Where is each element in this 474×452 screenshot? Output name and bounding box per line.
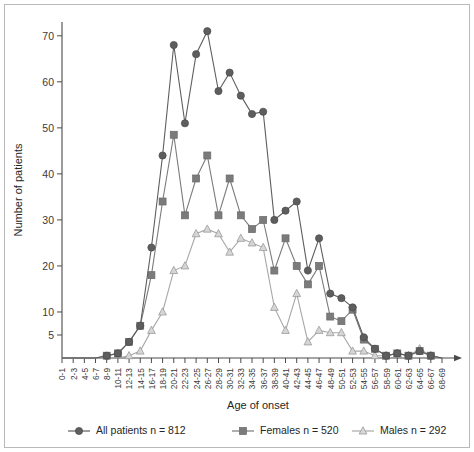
x-tick-label: 54-55 [359, 368, 369, 390]
x-tick-label: 58-59 [382, 368, 392, 390]
data-point-circle [383, 352, 390, 359]
data-point-triangle [159, 308, 167, 315]
x-tick-label: 48-49 [326, 368, 336, 390]
x-tick-label: 6-7 [91, 368, 101, 380]
data-point-circle [416, 347, 423, 354]
series-line [62, 31, 442, 358]
y-tick-label: 60 [42, 76, 54, 88]
x-tick-label: 40-41 [281, 368, 291, 390]
x-tick-label: 14-15 [136, 368, 146, 390]
data-point-triangle [282, 326, 290, 333]
x-tick-label: 60-61 [393, 368, 403, 390]
x-tick-label: 64-65 [415, 368, 425, 390]
data-point-circle [271, 216, 278, 223]
data-point-circle [125, 338, 132, 345]
legend-entry[interactable]: Males n = 292 [352, 424, 446, 436]
x-tick-label: 24-25 [192, 368, 202, 390]
x-tick-label: 62-63 [404, 368, 414, 390]
x-tick-label: 66-67 [426, 368, 436, 390]
y-tick-label: 5 [48, 329, 54, 341]
data-point-square [226, 175, 233, 182]
x-tick-label: 18-19 [158, 368, 168, 390]
x-tick-label: 2-3 [69, 368, 79, 380]
x-tick-label: 56-57 [370, 368, 380, 390]
data-point-triangle [315, 326, 323, 333]
x-tick-label: 44-45 [303, 368, 313, 390]
data-point-triangle [338, 328, 346, 335]
data-point-circle [338, 295, 345, 302]
x-tick-label: 12-13 [124, 368, 134, 390]
data-point-square [327, 313, 334, 320]
x-axis-arrow [454, 355, 462, 362]
data-point-square [204, 152, 211, 159]
data-point-square [181, 212, 188, 219]
data-point-circle [315, 235, 322, 242]
x-tick-label: 8-9 [102, 368, 112, 380]
data-point-square [260, 216, 267, 223]
y-tick-label: 10 [42, 306, 54, 318]
data-point-triangle [360, 347, 368, 354]
y-tick-label: 40 [42, 168, 54, 180]
data-point-circle [193, 51, 200, 58]
x-axis-ticks: 0-12-34-56-78-910-1112-1314-1516-1718-19… [57, 358, 447, 389]
legend-label: All patients n = 812 [96, 424, 186, 436]
data-point-circle [114, 350, 121, 357]
x-tick-label: 10-11 [113, 368, 123, 389]
data-point-triangle [181, 262, 189, 269]
line-chart-plot: 5102030405060700-12-34-56-78-910-1112-13… [0, 0, 474, 452]
x-tick-label: 30-31 [225, 368, 235, 390]
data-point-triangle [148, 326, 156, 333]
data-point-square [215, 212, 222, 219]
data-point-square [170, 131, 177, 138]
y-tick-label: 70 [42, 30, 54, 42]
data-point-circle [304, 267, 311, 274]
data-point-square [304, 281, 311, 288]
data-point-square [282, 235, 289, 242]
data-point-circle [327, 290, 334, 297]
x-tick-label: 0-1 [57, 368, 67, 380]
y-axis-ticks: 510203040506070 [42, 30, 62, 341]
x-tick-label: 68-69 [437, 368, 447, 390]
data-point-circle [349, 304, 356, 311]
data-point-circle [181, 120, 188, 127]
x-tick-label: 22-23 [180, 368, 190, 390]
x-tick-label: 32-33 [236, 368, 246, 390]
data-point-circle [360, 334, 367, 341]
data-point-square [159, 198, 166, 205]
legend-label: Males n = 292 [380, 424, 446, 436]
data-point-triangle [270, 303, 278, 310]
data-point-triangle [237, 234, 245, 241]
legend-entry[interactable]: Females n = 520 [232, 424, 339, 436]
data-point-circle [170, 41, 177, 48]
data-point-square [271, 267, 278, 274]
data-point-circle [204, 28, 211, 35]
data-point-circle [226, 69, 233, 76]
y-axis-title: Number of patients [12, 143, 24, 236]
series-line [62, 135, 442, 358]
x-tick-label: 20-21 [169, 368, 179, 390]
x-tick-label: 46-47 [314, 368, 324, 390]
data-point-square [193, 175, 200, 182]
data-point-circle [293, 198, 300, 205]
data-point-square [237, 212, 244, 219]
data-point-circle [103, 352, 110, 359]
y-tick-label: 20 [42, 260, 54, 272]
data-point-circle [237, 92, 244, 99]
data-point-triangle [203, 225, 211, 232]
data-point-triangle [293, 289, 301, 296]
data-point-triangle [136, 347, 144, 354]
series-males [62, 225, 442, 359]
x-tick-label: 34-35 [247, 368, 257, 390]
data-point-circle [215, 87, 222, 94]
x-tick-label: 42-43 [292, 368, 302, 390]
x-tick-label: 26-27 [203, 368, 213, 390]
data-point-circle [394, 350, 401, 357]
legend-entry[interactable]: All patients n = 812 [68, 424, 186, 436]
data-point-circle [148, 244, 155, 251]
data-point-square [293, 262, 300, 269]
data-point-square [316, 262, 323, 269]
x-tick-label: 50-51 [337, 368, 347, 390]
x-axis-title: Age of onset [227, 399, 289, 411]
axes [62, 22, 462, 361]
x-tick-label: 36-37 [259, 368, 269, 390]
